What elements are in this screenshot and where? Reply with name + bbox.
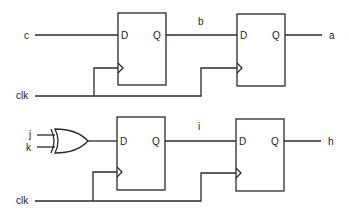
xor-gate-body: [55, 129, 88, 153]
signal-label-b: b: [198, 16, 204, 27]
input-label-k: k: [26, 142, 32, 153]
xor-gate-icon: [51, 129, 88, 153]
input-label-c: c: [24, 30, 29, 41]
input-label-j: j: [28, 129, 31, 140]
wire-clk-bottom-to-ff3: [93, 172, 117, 201]
xor-gate-input-arc: [51, 129, 54, 153]
ff4-q-pin-label: Q: [271, 136, 279, 147]
ff1-d-pin-label: D: [121, 30, 128, 41]
ff3-q-pin-label: Q: [152, 136, 160, 147]
ff2-d-pin-label: D: [240, 30, 247, 41]
ff1-body: [118, 13, 166, 85]
wire-clk-top-to-ff1: [94, 68, 118, 96]
top-circuit: c D Q b D Q a clk: [16, 13, 335, 101]
ff2-q-pin-label: Q: [272, 30, 280, 41]
output-label-a: a: [329, 30, 335, 41]
ff3-d-pin-label: D: [120, 136, 127, 147]
ff2-body: [237, 14, 285, 86]
output-label-h: h: [328, 136, 334, 147]
flip-flop-1: D Q: [118, 13, 166, 85]
signal-label-i: i: [198, 121, 200, 132]
ff4-body: [236, 119, 284, 191]
ff1-q-pin-label: Q: [153, 30, 161, 41]
ff3-body: [117, 117, 165, 190]
ff4-d-pin-label: D: [239, 136, 246, 147]
input-label-clk-top: clk: [16, 90, 29, 101]
input-label-clk-bottom: clk: [16, 195, 29, 206]
flip-flop-2: D Q: [237, 14, 285, 86]
bottom-circuit: j k D Q i D Q h clk: [16, 117, 334, 206]
flip-flop-3: D Q: [117, 117, 165, 190]
flip-flop-4: D Q: [236, 119, 284, 191]
circuit-diagram: c D Q b D Q a clk j k: [0, 0, 349, 217]
